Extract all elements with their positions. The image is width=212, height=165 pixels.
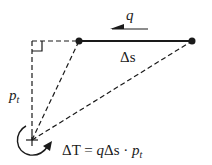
formula-subscript: t: [140, 149, 143, 160]
radial-line-right: [32, 41, 192, 140]
formula-equals: =: [81, 142, 97, 158]
arrow-left-icon: [110, 24, 148, 29]
diagram-canvas: q Δs pt ΔT = qΔs · pt: [0, 0, 212, 165]
element-length-text: Δs: [120, 49, 135, 65]
right-angle-marker: [32, 41, 42, 51]
shear-flow-label: q: [126, 8, 134, 23]
formula-q: q: [97, 142, 105, 158]
pivot-crosshair-icon: [26, 134, 38, 146]
moment-arm-base: p: [9, 87, 17, 103]
moment-arm-label: pt: [9, 88, 19, 105]
torque-formula: ΔT = qΔs · pt: [62, 143, 142, 160]
formula-lhs: ΔT: [62, 142, 81, 158]
formula-p: p: [132, 142, 140, 158]
node-right: [189, 38, 196, 45]
moment-arm-subscript: t: [17, 94, 20, 105]
diagram-svg: [0, 0, 212, 165]
node-left: [76, 38, 83, 45]
formula-ds: Δs ·: [104, 142, 132, 158]
element-length-label: Δs: [120, 50, 135, 65]
